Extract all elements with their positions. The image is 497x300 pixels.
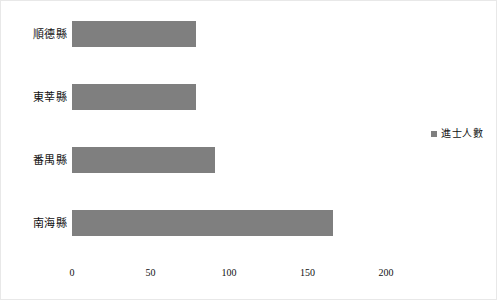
category-label-3: 南海縣 [5,217,67,231]
category-label-text: 東莘縣 [5,91,67,103]
legend-square-marker-icon [431,131,437,137]
chart-legend: 進士人數 [431,128,483,140]
x-tick-label-2: 100 [209,267,249,278]
plot-area: 順德縣 東莘縣 番禺縣 南海縣 0 50 100 150 200 進士人數 [1,1,497,300]
bar-panyu[interactable] [72,147,215,173]
x-tick-label-3: 150 [288,267,328,278]
x-tick-label-4: 200 [366,267,406,278]
legend-label: 進士人數 [441,128,483,140]
bar-nanhai[interactable] [72,210,333,236]
bar-dongguan[interactable] [72,84,196,110]
category-label-2: 番禺縣 [5,154,67,168]
category-label-text: 番禺縣 [5,154,67,166]
category-label-1: 東莘縣 [5,91,67,105]
x-tick-label-1: 50 [131,267,171,278]
x-tick-label-0: 0 [52,267,92,278]
bar-chart: 順德縣 東莘縣 番禺縣 南海縣 0 50 100 150 200 進士人數 [0,0,497,300]
category-label-text: 南海縣 [5,217,67,229]
category-label-text: 順德縣 [5,28,67,40]
category-label-0: 順德縣 [5,28,67,42]
bar-shunde[interactable] [72,21,196,47]
